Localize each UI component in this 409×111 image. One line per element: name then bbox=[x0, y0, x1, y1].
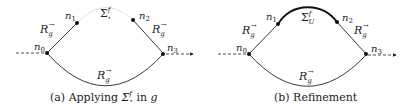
node-n0 bbox=[247, 52, 251, 56]
node-n3 bbox=[364, 52, 368, 56]
node-n3 bbox=[161, 52, 165, 56]
caption-b: (b) Refinement bbox=[274, 91, 358, 104]
label-n3: n3 bbox=[167, 42, 178, 55]
caption-a: (a) Applying Σf⋆ in g bbox=[50, 90, 158, 105]
node-n2 bbox=[335, 20, 339, 24]
label-sigma-star: Σf⋆ bbox=[100, 6, 112, 22]
label-n0: n0 bbox=[236, 42, 247, 55]
node-n2 bbox=[131, 18, 135, 22]
diagram-a: n0 n1 n2 n3 Rg→ Rg→ Rg→ Σf⋆ (a) Applying… bbox=[0, 0, 205, 111]
node-n0 bbox=[45, 51, 49, 55]
label-edge-bottom: Rg→ bbox=[298, 68, 314, 85]
label-n0: n0 bbox=[34, 41, 45, 54]
label-edge-left: Rg→ bbox=[241, 22, 257, 39]
label-edge-right: Rg→ bbox=[353, 22, 369, 39]
label-sigma-u: ΣfU bbox=[301, 10, 315, 26]
label-edge-left: Rg→ bbox=[39, 21, 55, 38]
diagram-b: n0 n1 n2 n3 Rg→ Rg→ Rg→ ΣfU (b) Refineme… bbox=[204, 0, 409, 111]
label-edge-bottom: Rg→ bbox=[96, 67, 112, 84]
label-edge-right: Rg→ bbox=[151, 21, 167, 38]
panel-refinement: n0 n1 n2 n3 Rg→ Rg→ Rg→ ΣfU (b) Refineme… bbox=[204, 0, 409, 111]
label-n2: n2 bbox=[342, 12, 353, 25]
label-n2: n2 bbox=[139, 10, 150, 23]
label-n1: n1 bbox=[65, 10, 76, 23]
panel-applying: n0 n1 n2 n3 Rg→ Rg→ Rg→ Σf⋆ (a) Applying… bbox=[0, 0, 205, 111]
label-n1: n1 bbox=[266, 11, 277, 24]
label-n3: n3 bbox=[371, 43, 382, 56]
